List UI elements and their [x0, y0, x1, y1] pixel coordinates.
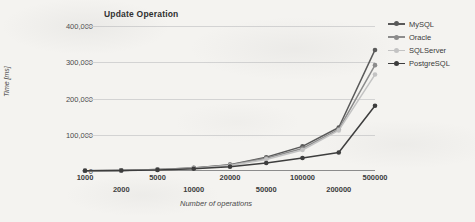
x-axis-tick-label: 200000: [326, 185, 351, 194]
legend-marker-icon: [388, 33, 405, 41]
x-axis-tick-label: 10000: [183, 185, 204, 194]
chart-container: Update Operation 400,000 300,000 200,000…: [0, 0, 475, 222]
data-point-marker: [336, 150, 341, 155]
data-point-marker: [373, 103, 378, 108]
legend-label: PostgreSQL: [409, 59, 450, 68]
data-point-marker: [373, 72, 378, 77]
data-point-marker: [373, 48, 378, 53]
data-point-marker: [264, 161, 269, 166]
plot-area: [85, 26, 375, 171]
data-point-marker: [191, 167, 196, 172]
data-point-marker: [155, 168, 160, 173]
data-point-marker: [119, 168, 124, 173]
legend-item[interactable]: SQLServer: [388, 46, 450, 54]
series-line: [85, 50, 375, 171]
x-axis-tick-label: 50000: [256, 185, 277, 194]
series-line: [85, 106, 375, 171]
legend-label: Oracle: [409, 33, 431, 42]
legend-item[interactable]: MySQL: [388, 20, 450, 28]
series-lines-layer: [85, 26, 375, 171]
x-axis-tick-label: 20000: [220, 173, 241, 182]
data-point-marker: [300, 156, 305, 161]
legend-marker-icon: [388, 46, 405, 54]
legend-marker-icon: [388, 20, 405, 28]
x-axis-tick-label: 2000: [113, 185, 130, 194]
legend-marker-icon: [388, 60, 405, 68]
data-point-marker: [228, 164, 233, 169]
y-axis-title: Time [ms]: [3, 58, 10, 106]
x-axis-tick-label: 100000: [290, 173, 315, 182]
series-line: [85, 75, 375, 171]
chart-legend: MySQLOracleSQLServerPostgreSQL: [388, 20, 450, 68]
legend-item[interactable]: Oracle: [388, 33, 450, 41]
x-axis-tick-label: 1000: [77, 173, 94, 182]
data-point-marker: [300, 148, 305, 153]
legend-item[interactable]: PostgreSQL: [388, 60, 450, 68]
x-axis-tick-label: 500000: [362, 173, 387, 182]
legend-label: SQLServer: [409, 46, 446, 55]
x-axis-tick-label: 5000: [149, 173, 166, 182]
series-line: [85, 65, 375, 171]
data-point-marker: [336, 128, 341, 133]
legend-label: MySQL: [409, 20, 434, 29]
data-point-marker: [373, 63, 378, 68]
x-axis-title: Number of operations: [180, 199, 252, 208]
